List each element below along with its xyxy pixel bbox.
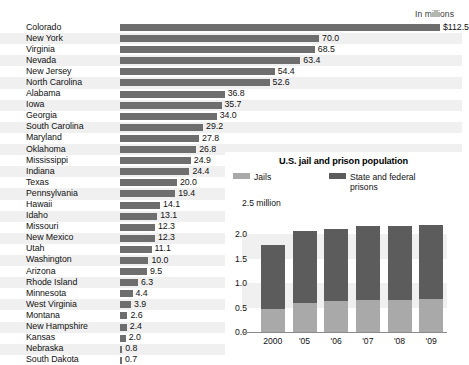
inset-plot-area: 2.01.51.00.50.0 2000'05'06'07'08'09 xyxy=(242,210,447,332)
bar-value-label: 70.0 xyxy=(322,33,339,45)
bar-row-state-label: Colorado xyxy=(26,22,61,34)
bar xyxy=(120,335,126,342)
bar-wrapper: 27.8 xyxy=(120,135,199,142)
bar xyxy=(120,79,270,86)
inset-x-tick-label: '07 xyxy=(362,336,373,346)
bar-row-state-label: Iowa xyxy=(26,99,44,111)
bar-value-label: $112.5 xyxy=(443,22,469,34)
inset-segment-jails xyxy=(324,301,348,332)
bar-wrapper: 68.5 xyxy=(120,46,315,53)
inset-y-axis: 2.01.51.00.50.0 xyxy=(225,210,247,332)
bar-wrapper: 2.0 xyxy=(120,335,126,342)
bar-row-state-label: Arizona xyxy=(26,266,55,278)
bar-row-state-label: New Jersey xyxy=(26,66,71,78)
bar-wrapper: 2.4 xyxy=(120,324,127,331)
inset-segment-prisons xyxy=(324,229,348,301)
bar-row-state-label: Virginia xyxy=(26,44,55,56)
bar-value-label: 4.4 xyxy=(136,288,148,300)
bar xyxy=(120,102,222,109)
bar-value-label: 36.8 xyxy=(228,88,245,100)
bar-value-label: 26.8 xyxy=(199,144,216,156)
bar-value-label: 24.4 xyxy=(192,166,209,178)
bar xyxy=(120,124,203,131)
inset-chart-panel: U.S. jail and prison population Jails St… xyxy=(225,152,462,365)
bar-row-state-label: Kansas xyxy=(26,332,55,344)
bar-wrapper: 12.3 xyxy=(120,235,155,242)
bar-wrapper: 13.1 xyxy=(120,213,157,220)
bar xyxy=(120,68,275,75)
bar-row-state-label: Georgia xyxy=(26,110,57,122)
bar-wrapper: 26.8 xyxy=(120,146,196,153)
bar xyxy=(120,301,131,308)
inset-column xyxy=(419,225,443,332)
inset-chart-title: U.S. jail and prison population xyxy=(225,156,462,166)
bar-value-label: 35.7 xyxy=(225,99,242,111)
inset-segment-jails xyxy=(388,300,412,332)
bar-row-state-label: Alabama xyxy=(26,88,60,100)
bar-wrapper: 52.6 xyxy=(120,79,270,86)
bar-wrapper: 6.3 xyxy=(120,279,138,286)
bar xyxy=(120,324,127,331)
bar-value-label: 14.1 xyxy=(163,199,180,211)
bar-row-state-label: South Carolina xyxy=(26,121,84,133)
bar-row-state-label: Hawaii xyxy=(26,199,52,211)
bar-row: New York70.0 xyxy=(0,33,462,44)
bar-row: South Carolina29.2 xyxy=(0,122,462,133)
inset-y-tick-label: 2.0 xyxy=(235,229,247,239)
bar xyxy=(120,157,191,164)
bar-wrapper: 20.0 xyxy=(120,179,177,186)
bar xyxy=(120,224,155,231)
bar xyxy=(120,279,138,286)
bar-row-state-label: New Mexico xyxy=(26,232,73,244)
inset-segment-jails xyxy=(356,300,380,332)
legend-swatch-prisons-icon xyxy=(329,173,346,179)
bar-value-label: 12.3 xyxy=(158,232,175,244)
bar-value-label: 52.6 xyxy=(273,77,290,89)
bar-row-state-label: Maryland xyxy=(26,132,62,144)
bar-row-state-label: Idaho xyxy=(26,210,48,222)
bar-row-state-label: Utah xyxy=(26,243,44,255)
bar-value-label: 12.3 xyxy=(158,221,175,233)
bar xyxy=(120,235,155,242)
bar-row-state-label: Indiana xyxy=(26,166,55,178)
bar-row-state-label: Texas xyxy=(26,177,49,189)
legend-item-jails: Jails xyxy=(233,172,271,182)
bar xyxy=(120,202,160,209)
bar-row-state-label: Minnesota xyxy=(26,288,66,300)
bar-value-label: 34.0 xyxy=(220,110,237,122)
bar xyxy=(120,113,217,120)
bar-wrapper: 4.4 xyxy=(120,290,133,297)
bar-row: Georgia34.0 xyxy=(0,111,462,122)
inset-x-tick-label: 2000 xyxy=(263,336,282,346)
bar-row-state-label: Nevada xyxy=(26,55,56,67)
bar xyxy=(120,213,157,220)
bar-row-state-label: Mississippi xyxy=(26,155,68,167)
bar-value-label: 54.4 xyxy=(278,66,295,78)
inset-segment-prisons xyxy=(356,226,380,300)
bar-row: Alabama36.8 xyxy=(0,89,462,100)
bar xyxy=(120,312,127,319)
bar xyxy=(120,24,440,31)
bar-value-label: 0.8 xyxy=(125,343,137,355)
inset-x-axis-line xyxy=(242,332,447,333)
bar-value-label: 68.5 xyxy=(318,44,335,56)
bar-wrapper: 29.2 xyxy=(120,124,203,131)
bar-wrapper: 36.8 xyxy=(120,91,225,98)
bar-wrapper: 63.4 xyxy=(120,57,300,64)
inset-column xyxy=(324,229,348,332)
bar-value-label: 2.0 xyxy=(129,332,141,344)
bar-row-state-label: Rhode Island xyxy=(26,277,77,289)
bar-wrapper: 24.9 xyxy=(120,157,191,164)
bar-row-state-label: Oklahoma xyxy=(26,144,66,156)
bar xyxy=(120,46,315,53)
bar-row: Colorado$112.5 xyxy=(0,22,462,33)
bar-wrapper: 9.5 xyxy=(120,268,147,275)
bar-value-label: 13.1 xyxy=(160,210,177,222)
bar-wrapper: 2.6 xyxy=(120,312,127,319)
bar-wrapper: 0.8 xyxy=(120,346,122,353)
bar-value-label: 2.6 xyxy=(130,310,142,322)
bar-wrapper: 10.0 xyxy=(120,257,148,264)
bar-wrapper: 14.1 xyxy=(120,202,160,209)
bar-value-label: 10.0 xyxy=(151,255,168,267)
bar-row: Maryland27.8 xyxy=(0,133,462,144)
